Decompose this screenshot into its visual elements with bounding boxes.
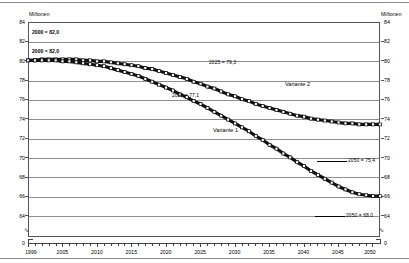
- x-axis-line: [28, 243, 380, 244]
- x-tick-2020: 2020: [153, 249, 179, 255]
- x-tick-1999: 1999: [18, 249, 44, 255]
- y-tick-right-70: 70: [384, 155, 397, 161]
- annotation-start-upper: 2000 = 82,0: [32, 29, 59, 35]
- top-rule: [0, 2, 409, 3]
- y-tick-left-0: 0: [14, 240, 25, 246]
- annotation-end-lower: 2050 = 68,0: [346, 212, 373, 218]
- x-tick-2045: 2045: [325, 249, 351, 255]
- x-tick-2030: 2030: [222, 249, 248, 255]
- annotation-mid-lower: 2025 = 77,1: [172, 92, 199, 98]
- annotation-start-lower: 2000 = 82,0: [32, 48, 59, 54]
- x-tick-2040: 2040: [291, 249, 317, 255]
- y-axis-unit-right: Millionen: [381, 11, 402, 17]
- series-label-variante-1: Variante 1: [213, 127, 238, 133]
- y-tick-left-72: 72: [14, 135, 25, 141]
- y-tick-right-74: 74: [384, 116, 397, 122]
- y-tick-right-68: 68: [384, 174, 397, 180]
- series-label-variante-2: Variante 2: [285, 81, 310, 87]
- y-tick-left-70: 70: [14, 155, 25, 161]
- x-tick-2010: 2010: [84, 249, 110, 255]
- y-tick-right-84: 84: [384, 19, 397, 25]
- y-tick-right-80: 80: [384, 58, 397, 64]
- y-tick-right-78: 78: [384, 77, 397, 83]
- y-tick-left-84: 84: [14, 19, 25, 25]
- y-tick-right-0: 0: [384, 240, 397, 246]
- x-tick-2015: 2015: [118, 249, 144, 255]
- axis-break-left-icon: ∿: [24, 227, 29, 233]
- bottom-rule: [0, 258, 409, 259]
- x-tick-2005: 2005: [49, 249, 75, 255]
- plot-area: [28, 22, 380, 237]
- y-axis-unit-left: Millionen: [29, 11, 50, 17]
- y-tick-left-76: 76: [14, 96, 25, 102]
- y-tick-left-78: 78: [14, 77, 25, 83]
- y-tick-left-68: 68: [14, 174, 25, 180]
- y-tick-right-64: 64: [384, 213, 397, 219]
- annotation-mid-upper: 2025 = 79,3: [209, 59, 236, 65]
- x-tick-2035: 2035: [256, 249, 282, 255]
- y-tick-left-74: 74: [14, 116, 25, 122]
- x-tick-2050: 2050: [357, 249, 383, 255]
- y-tick-right-82: 82: [384, 38, 397, 44]
- y-tick-right-72: 72: [384, 135, 397, 141]
- x-tick-2025: 2025: [187, 249, 213, 255]
- y-tick-right-66: 66: [384, 193, 397, 199]
- y-tick-left-66: 66: [14, 193, 25, 199]
- y-tick-left-64: 64: [14, 213, 25, 219]
- chart-page: Millionen Millionen 84 82 80 78 76 74 72…: [0, 0, 409, 263]
- axis-break-right-icon: ∿: [379, 227, 384, 233]
- annotation-end-upper: 2050 = 75,4: [348, 157, 375, 163]
- y-tick-left-82: 82: [14, 38, 25, 44]
- y-tick-right-76: 76: [384, 96, 397, 102]
- y-tick-left-80: 80: [14, 58, 25, 64]
